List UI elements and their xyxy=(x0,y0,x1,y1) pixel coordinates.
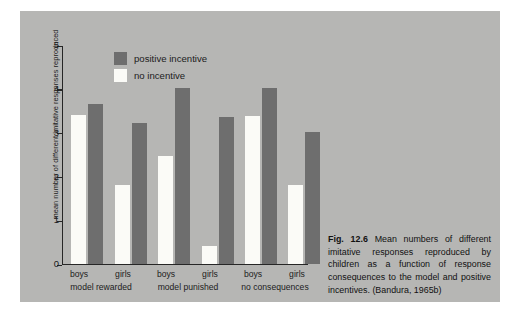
x-tick-label-model-rewarded-girls: girls xyxy=(115,269,131,279)
y-tick-label: 1 xyxy=(54,214,59,225)
bar-no-incentive-no-consequences-girls xyxy=(288,185,303,264)
x-group-label-model-rewarded: model rewarded xyxy=(70,282,132,292)
legend-label: positive incentive xyxy=(134,53,207,64)
x-tick-label-model-punished-boys: boys xyxy=(157,269,175,279)
bar-positive-incentive-no-consequences-boys xyxy=(262,88,277,263)
y-tick-label: 5 xyxy=(54,39,59,50)
bar-no-incentive-no-consequences-boys xyxy=(245,116,260,264)
bar-positive-incentive-model-punished-boys xyxy=(175,88,190,263)
x-group-label-no-consequences: no consequences xyxy=(241,282,308,292)
legend-label: no incentive xyxy=(134,70,185,81)
y-axis-line xyxy=(62,46,63,265)
legend-swatch-icon xyxy=(114,52,127,65)
legend-item-positive-incentive: positive incentive xyxy=(114,52,207,65)
bar-positive-incentive-no-consequences-girls xyxy=(305,132,320,263)
figure-caption: Fig. 12.6 Mean numbers of different imit… xyxy=(328,233,491,296)
bar-positive-incentive-model-rewarded-girls xyxy=(132,123,147,263)
x-tick-label-model-punished-girls: girls xyxy=(202,269,218,279)
bar-positive-incentive-model-punished-girls xyxy=(219,117,234,264)
y-tick-label: 4 xyxy=(54,83,59,94)
y-tick-label: 0 xyxy=(54,258,59,269)
x-tick-label-model-rewarded-boys: boys xyxy=(70,269,88,279)
legend-swatch-icon xyxy=(114,69,127,82)
bar-positive-incentive-model-rewarded-boys xyxy=(88,104,103,264)
figure-panel: mean number of different imitative respo… xyxy=(20,11,500,302)
x-tick-label-no-consequences-girls: girls xyxy=(289,269,305,279)
legend-item-no-incentive: no incentive xyxy=(114,69,207,82)
bar-no-incentive-model-rewarded-boys xyxy=(71,115,86,264)
bar-no-incentive-model-rewarded-girls xyxy=(115,185,130,264)
y-tick-label: 3 xyxy=(54,127,59,138)
bar-no-incentive-model-punished-girls xyxy=(202,246,217,264)
x-tick-label-no-consequences-boys: boys xyxy=(244,269,262,279)
chart-plot-area: mean number of different imitative respo… xyxy=(28,22,313,292)
bar-no-incentive-model-punished-boys xyxy=(158,156,173,263)
chart-legend: positive incentive no incentive xyxy=(114,52,207,86)
x-axis-line xyxy=(62,264,308,265)
figure-caption-label: Fig. 12.6 xyxy=(328,234,368,244)
y-tick-label: 2 xyxy=(54,171,59,182)
x-group-label-model-punished: model punished xyxy=(158,282,219,292)
